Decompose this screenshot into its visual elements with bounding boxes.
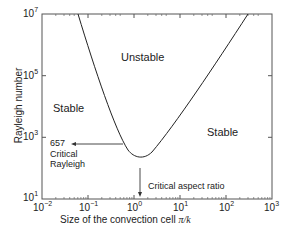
unstable-label: Unstable <box>121 52 164 63</box>
stable-right-label: Stable <box>207 127 238 138</box>
arrowhead-left-icon <box>71 142 76 146</box>
critical-aspect-ratio-label: Critical aspect ratio <box>148 181 225 192</box>
x-tick-1e1: 101 <box>173 203 188 213</box>
stable-left-label: Stable <box>53 103 84 114</box>
arrowhead-down-icon <box>138 192 142 197</box>
x-tick-1e3: 103 <box>264 203 279 213</box>
x-tick-1e0: 100 <box>127 203 142 213</box>
x-tick-1e-2: 10−2 <box>33 203 52 213</box>
x-tick-1e2: 102 <box>219 203 234 213</box>
y-tick-1e7: 107 <box>23 9 38 19</box>
y-axis-label: Rayleigh number <box>13 66 24 146</box>
critical-rayleigh-value: 657 <box>50 138 65 149</box>
x-tick-1e-1: 10−1 <box>79 203 98 213</box>
critical-rayleigh-label-line2: Rayleigh <box>50 159 85 170</box>
y-tick-1e5: 105 <box>23 71 38 81</box>
x-axis-label: Size of the convection cell π/k <box>60 214 191 225</box>
x-axis-symbol: π/k <box>178 214 190 225</box>
y-tick-1e3: 103 <box>23 132 38 142</box>
x-minor-ticks <box>56 14 270 199</box>
